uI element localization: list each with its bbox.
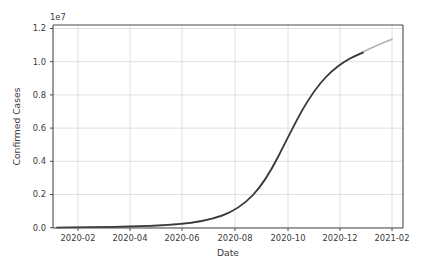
plot-area-background — [53, 25, 403, 228]
y-tick-label-6: 1.2 — [33, 23, 46, 33]
x-tick-label-5: 2020-12 — [323, 233, 358, 243]
confirmed-cases-line-chart: 1.2 1.0 0.8 0.6 0.4 0.2 0.0 2020-02 2020… — [0, 0, 421, 274]
x-tick-label-0: 2020-02 — [61, 233, 96, 243]
x-tick-label-6: 2021-02 — [375, 233, 410, 243]
x-axis-title: Date — [217, 247, 239, 258]
x-tick-label-4: 2020-10 — [271, 233, 306, 243]
y-tick-label-0: 0.0 — [33, 223, 46, 233]
y-tick-label-1: 0.2 — [33, 189, 46, 199]
x-tick-label-1: 2020-04 — [113, 233, 148, 243]
x-tick-labels: 2020-02 2020-04 2020-06 2020-08 2020-10 … — [61, 233, 410, 243]
y-axis-title: Confirmed Cases — [11, 87, 22, 165]
y-axis-offset-text: 1e7 — [50, 12, 66, 22]
chart-figure: 1.2 1.0 0.8 0.6 0.4 0.2 0.0 2020-02 2020… — [0, 0, 421, 274]
x-tick-label-2: 2020-06 — [165, 233, 200, 243]
y-tick-label-5: 1.0 — [33, 57, 46, 67]
x-tick-label-3: 2020-08 — [218, 233, 253, 243]
y-tick-label-4: 0.8 — [33, 90, 46, 100]
y-tick-label-2: 0.4 — [33, 156, 46, 166]
y-tick-label-3: 0.6 — [33, 123, 46, 133]
